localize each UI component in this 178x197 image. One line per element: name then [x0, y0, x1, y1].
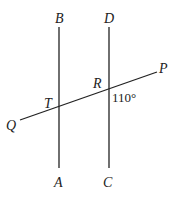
label-p: P — [158, 61, 168, 76]
label-q: Q — [6, 118, 16, 133]
angle-label: 110° — [112, 90, 136, 105]
label-t: T — [44, 96, 53, 111]
label-c: C — [103, 175, 113, 190]
label-b: B — [55, 11, 64, 26]
label-a: A — [53, 175, 63, 190]
label-r: R — [92, 76, 102, 91]
line-qp — [20, 72, 157, 120]
label-d: D — [103, 11, 114, 26]
geometry-diagram: B D P R 110° T Q A C — [0, 0, 178, 197]
